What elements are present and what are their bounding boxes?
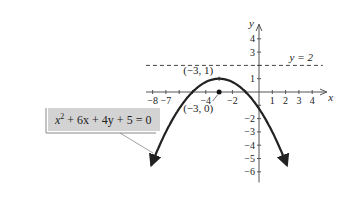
x-tick-label: 3 xyxy=(296,95,301,106)
y-tick-label: 4 xyxy=(250,33,255,44)
y-tick-label: 1 xyxy=(250,73,255,84)
focus-pointer xyxy=(212,95,217,102)
y-tick-label: −6 xyxy=(244,166,255,177)
directrix-label: y = 2 xyxy=(289,51,314,63)
x-tick-label: 1 xyxy=(270,95,275,106)
x-tick-label: −8 xyxy=(147,95,158,106)
vertex-label: (−3, 1) xyxy=(183,64,213,77)
parabola-chart: xy −8−7−4−21234431−2−3−4−5−6 y = 2 (−3, … xyxy=(0,0,346,198)
y-tick-label: −5 xyxy=(244,153,255,164)
x-tick-label: 2 xyxy=(283,95,288,106)
focus-label: (−3, 0) xyxy=(183,102,213,115)
equation-leader-line xyxy=(120,133,153,153)
y-tick-label: −4 xyxy=(244,140,255,151)
y-axis-label: y xyxy=(248,17,254,29)
x-tick-label: 4 xyxy=(310,95,315,106)
x-axis-label: x xyxy=(327,91,333,103)
equation-label: x2 + 6x + 4y + 5 = 0 xyxy=(54,112,151,127)
focus-point xyxy=(217,90,222,95)
y-tick-label: 3 xyxy=(250,47,255,58)
x-tick-label: −2 xyxy=(227,95,238,106)
y-tick-label: −2 xyxy=(244,113,255,124)
y-tick-label: −3 xyxy=(244,126,255,137)
x-tick-label: −7 xyxy=(161,95,172,106)
